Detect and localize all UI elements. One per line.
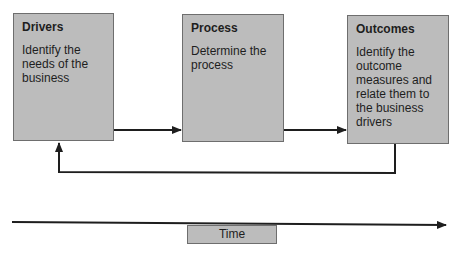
box-title: Process <box>191 21 275 35</box>
arrow-feedback-outcomes-to-drivers <box>59 143 395 173</box>
box-description: Identify the needs of the business <box>22 43 105 85</box>
box-description: Determine the process <box>191 44 275 72</box>
box-title: Outcomes <box>356 22 440 36</box>
box-description: Identify the outcome measures and relate… <box>356 45 440 129</box>
box-outcomes: Outcomes Identify the outcome measures a… <box>347 15 449 144</box>
timeline-label: Time <box>187 225 277 244</box>
box-title: Drivers <box>22 20 105 34</box>
box-process: Process Determine the process <box>182 14 284 142</box>
box-drivers: Drivers Identify the needs of the busine… <box>13 13 114 141</box>
